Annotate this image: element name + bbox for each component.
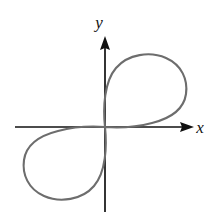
- curve-figure: y x: [0, 0, 218, 222]
- figure-container: y x: [0, 0, 218, 222]
- x-axis-label: x: [195, 118, 204, 137]
- y-axis-label: y: [93, 13, 103, 32]
